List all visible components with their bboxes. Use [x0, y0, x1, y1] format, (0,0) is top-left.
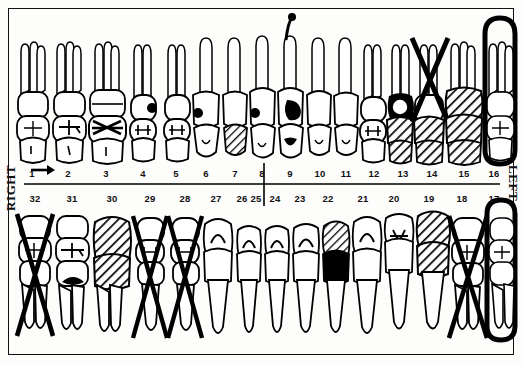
tooth-30 — [94, 217, 131, 331]
tooth-14 — [412, 38, 448, 165]
tooth-number-10[interactable]: 10 — [315, 168, 326, 179]
tooth-number-2[interactable]: 2 — [65, 168, 70, 179]
tooth-29 — [133, 216, 167, 338]
tooth-31 — [56, 216, 89, 329]
tooth-diagram — [0, 0, 524, 365]
tooth-number-25[interactable]: 25 — [251, 193, 262, 204]
side-label-right: RIGHT — [3, 160, 19, 216]
tooth-15 — [446, 42, 483, 165]
tooth-20 — [417, 212, 450, 329]
tooth-number-12[interactable]: 12 — [369, 168, 380, 179]
tooth-7 — [223, 38, 247, 155]
tooth-number-17[interactable]: 17 — [489, 193, 500, 204]
tooth-number-6[interactable]: 6 — [203, 168, 208, 179]
tooth-6 — [193, 38, 219, 157]
tooth-number-31[interactable]: 31 — [67, 193, 78, 204]
tooth-27 — [204, 219, 233, 333]
tooth-number-27[interactable]: 27 — [211, 193, 222, 204]
tooth-number-14[interactable]: 14 — [427, 168, 438, 179]
lower-number-row: 32 31 30 29 28 27 26 25 24 23 22 21 20 1… — [0, 193, 524, 206]
tooth-19 — [449, 216, 487, 338]
tooth-number-4[interactable]: 4 — [140, 168, 145, 179]
tooth-9 — [278, 13, 303, 158]
tooth-26 — [237, 226, 261, 332]
tooth-10 — [307, 38, 331, 155]
tooth-16 — [485, 18, 515, 164]
tooth-17 — [487, 200, 515, 340]
tooth-12 — [360, 45, 386, 163]
side-label-left: LEFT — [505, 160, 521, 206]
tooth-13 — [387, 45, 414, 164]
dental-chart: 1 2 3 4 5 6 7 8 9 10 11 12 13 14 15 16 3… — [0, 0, 524, 365]
tooth-23 — [323, 222, 350, 333]
tooth-number-23[interactable]: 23 — [295, 193, 306, 204]
tooth-8 — [250, 36, 275, 158]
tooth-number-18[interactable]: 18 — [457, 193, 468, 204]
tooth-21 — [385, 214, 414, 329]
tooth-3 — [89, 42, 126, 164]
maxillary-arch-group — [17, 13, 515, 165]
tooth-number-32[interactable]: 32 — [30, 193, 41, 204]
tooth-5 — [164, 45, 190, 162]
tooth-number-8[interactable]: 8 — [259, 168, 264, 179]
tooth-24 — [293, 224, 319, 332]
tooth-number-9[interactable]: 9 — [287, 168, 292, 179]
tooth-number-16[interactable]: 16 — [489, 168, 500, 179]
tooth-number-11[interactable]: 11 — [341, 168, 351, 179]
tooth-number-24[interactable]: 24 — [270, 193, 281, 204]
tooth-1 — [17, 42, 49, 163]
tooth-number-30[interactable]: 30 — [107, 193, 118, 204]
mandibular-arch-group — [17, 200, 515, 340]
tooth-25 — [265, 226, 289, 332]
tooth-4 — [130, 45, 157, 162]
tooth-number-22[interactable]: 22 — [323, 193, 334, 204]
tooth-2 — [53, 42, 86, 163]
tooth-28 — [168, 216, 202, 338]
tooth-number-1[interactable]: 1 — [29, 168, 34, 179]
tooth-number-21[interactable]: 21 — [358, 193, 369, 204]
tooth-number-20[interactable]: 20 — [389, 193, 400, 204]
tooth-number-7[interactable]: 7 — [232, 168, 237, 179]
tooth-number-3[interactable]: 3 — [103, 168, 108, 179]
tooth-number-26[interactable]: 26 — [237, 193, 248, 204]
tooth-number-29[interactable]: 29 — [145, 193, 156, 204]
tooth-11 — [334, 38, 358, 155]
tooth-number-15[interactable]: 15 — [459, 168, 470, 179]
tooth-number-13[interactable]: 13 — [398, 168, 409, 179]
tooth-32 — [17, 214, 53, 336]
tooth-number-19[interactable]: 19 — [424, 193, 435, 204]
tooth-number-28[interactable]: 28 — [180, 193, 191, 204]
tooth-22 — [353, 217, 382, 333]
tooth-number-5[interactable]: 5 — [173, 168, 178, 179]
upper-number-row: 1 2 3 4 5 6 7 8 9 10 11 12 13 14 15 16 — [0, 168, 524, 181]
